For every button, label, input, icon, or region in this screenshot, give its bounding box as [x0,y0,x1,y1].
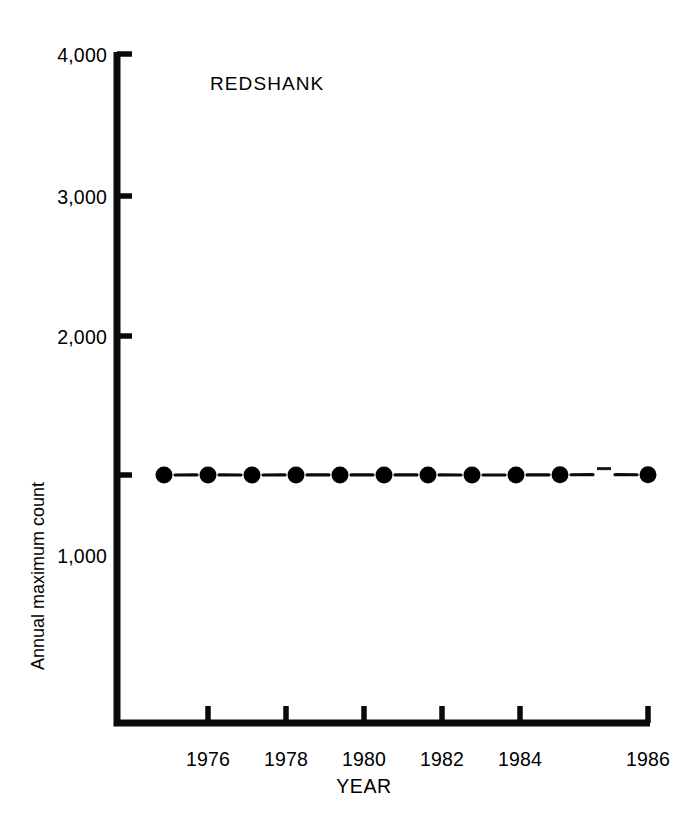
y-tick-label-1000: 1,000 [57,545,107,567]
x-tick-label-1978: 1978 [264,748,308,770]
data-point-marker [376,466,393,483]
x-axis-title: YEAR [336,775,392,797]
data-point-marker [464,466,481,483]
y-axis-title: Annual maximum count [28,482,48,670]
data-point-marker [552,466,569,483]
data-point-marker [420,466,437,483]
line-chart-canvas: 4,000 3,000 2,000 1,000 1976 1978 1980 1… [0,0,699,828]
y-tick-label-4000: 4,000 [57,44,107,66]
x-tick-label-1976: 1976 [186,748,230,770]
x-tick-label-1982: 1982 [420,748,464,770]
data-point-marker [244,467,261,484]
x-tick-label-1986: 1986 [626,748,670,770]
axis-lines [117,52,650,723]
chart-title: REDSHANK [210,73,324,94]
x-tick-label-1984: 1984 [498,748,542,770]
data-series [156,466,657,483]
data-point-marker [200,466,217,483]
data-point-marker [156,467,173,484]
y-tick-label-3000: 3,000 [57,186,107,208]
data-point-marker [508,467,525,484]
data-point-marker [332,466,349,483]
chart-figure: 4,000 3,000 2,000 1,000 1976 1978 1980 1… [0,0,699,828]
data-point-marker [640,466,657,483]
data-point-marker [288,466,305,483]
y-tick-label-2000: 2,000 [57,326,107,348]
x-tick-label-1980: 1980 [342,748,386,770]
